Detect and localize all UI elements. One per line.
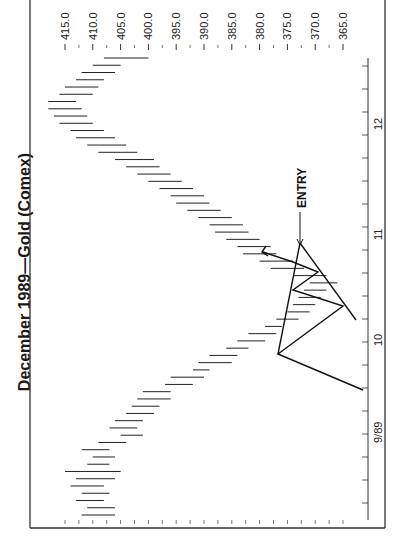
price-tick-label: 385.0: [226, 12, 238, 40]
price-axis: 415.0410.0405.0400.0395.0390.0385.0380.0…: [59, 12, 349, 50]
breakout-arrowhead-icon: [262, 246, 268, 256]
date-tick-label: 10: [372, 334, 384, 346]
entry-label: ENTRY: [295, 168, 309, 208]
bottom-tick-row: [65, 520, 343, 524]
price-tick-label: 410.0: [87, 12, 99, 40]
chart-frame: [30, 0, 385, 528]
date-tick-label: 9/89: [372, 422, 384, 443]
price-bars: [48, 58, 337, 515]
price-tick-label: 365.0: [337, 12, 349, 40]
chart: 415.0410.0405.0400.0395.0390.0385.0380.0…: [0, 0, 393, 548]
price-tick-label: 395.0: [170, 12, 182, 40]
price-tick-label: 370.0: [309, 12, 321, 40]
entry-annotation: ENTRY: [295, 168, 309, 245]
price-tick-label: 380.0: [254, 12, 266, 40]
date-tick-label: 11: [372, 229, 384, 240]
price-tick-label: 405.0: [115, 12, 127, 40]
price-tick-label: 375.0: [281, 12, 293, 40]
triangle-pattern: [262, 243, 363, 390]
price-tick-label: 400.0: [142, 12, 154, 40]
date-tick-label: 12: [372, 118, 384, 130]
price-tick-label: 415.0: [59, 12, 71, 40]
price-tick-label: 390.0: [198, 12, 210, 40]
date-axis: 9/89101112: [362, 66, 384, 503]
